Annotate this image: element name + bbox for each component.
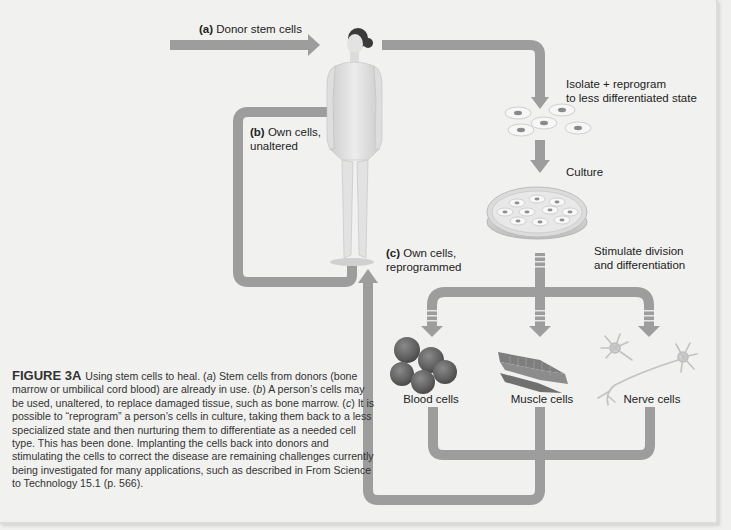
blood-cells-icon xyxy=(390,337,457,394)
cells-return-path xyxy=(433,407,650,470)
label-c-line1: Own cells, xyxy=(403,247,456,259)
human-figure-icon xyxy=(327,28,382,266)
muscle-cells-icon xyxy=(498,352,568,393)
label-nerve-cells: Nerve cells xyxy=(614,392,690,406)
label-isolate-reprogram: Isolate + reprogram to less differentiat… xyxy=(566,77,697,105)
petri-dish-icon xyxy=(487,187,587,239)
isolated-cells-icon xyxy=(505,104,591,136)
label-stimulate-division: Stimulate division and differentiation xyxy=(594,244,685,272)
label-culture: Culture xyxy=(566,165,603,179)
label-own-cells-unaltered: (b) Own cells, unaltered xyxy=(250,125,321,153)
label-text-a: Donor stem cells xyxy=(216,23,302,35)
caption-text: Using stem cells to heal. ( xyxy=(85,370,206,382)
reprogrammed-return-arrow xyxy=(368,282,540,500)
label-prefix-c: (c) xyxy=(386,247,400,259)
return-arrowhead xyxy=(358,269,378,283)
reprogram-arrowhead xyxy=(531,97,549,109)
label-c-line2: reprogrammed xyxy=(386,261,461,273)
label-isolate-line2: to less differentiated state xyxy=(566,92,697,104)
label-b-line1: Own cells, xyxy=(268,126,321,138)
label-isolate-line1: Isolate + reprogram xyxy=(566,78,666,90)
label-stimulate-line2: and differentiation xyxy=(594,259,685,271)
label-prefix-a: (a) xyxy=(199,23,213,35)
label-b-line2: unaltered xyxy=(250,140,298,152)
reprogram-path-arrow xyxy=(382,45,540,97)
figure-caption: FIGURE 3AUsing stem cells to heal. (a) S… xyxy=(12,369,377,491)
label-own-cells-reprogrammed: (c) Own cells, reprogrammed xyxy=(386,246,461,274)
donor-arrow xyxy=(170,34,320,56)
figure-title: FIGURE 3A xyxy=(12,368,81,383)
stimulate-stem xyxy=(535,253,545,273)
label-donor-stem-cells: (a) Donor stem cells xyxy=(199,22,302,36)
label-blood-cells: Blood cells xyxy=(396,392,466,406)
cells-return-stem xyxy=(535,470,545,492)
caption-text: ) It is possible to “reprogram” a person… xyxy=(12,397,374,489)
label-stimulate-line1: Stimulate division xyxy=(594,245,683,257)
culture-arrow xyxy=(530,140,550,173)
label-muscle-cells: Muscle cells xyxy=(502,392,582,406)
label-prefix-b: (b) xyxy=(250,126,265,138)
